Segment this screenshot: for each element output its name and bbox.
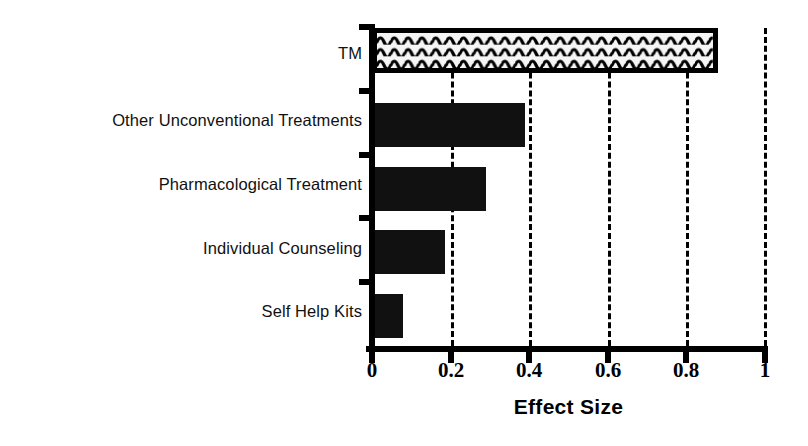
- x-tick-label-0.6: 0.6: [595, 360, 621, 381]
- category-label-tm: TM: [338, 45, 362, 62]
- category-label-other-unconventional-treatments: Other Unconventional Treatments: [112, 112, 362, 129]
- category-label-pharmacological-treatment: Pharmacological Treatment: [159, 176, 362, 193]
- x-axis-title: Effect Size: [372, 396, 765, 417]
- category-label-individual-counseling: Individual Counseling: [203, 240, 362, 257]
- gridline-0.8: [686, 28, 689, 346]
- x-axis-line: [366, 346, 768, 352]
- x-tick-label-0: 0: [367, 360, 378, 381]
- effect-size-bar-chart: TM Other Unconventional Treatments Pharm…: [0, 0, 808, 446]
- plot-area: [372, 28, 765, 346]
- y-tick-4: [359, 279, 371, 285]
- bar-pharmacological-treatment: [372, 167, 486, 211]
- x-tick-label-0.4: 0.4: [516, 360, 542, 381]
- gridline-0.4: [529, 28, 532, 346]
- gridline-0.6: [608, 28, 611, 346]
- category-axis-labels: TM Other Unconventional Treatments Pharm…: [0, 0, 362, 446]
- y-tick-0: [359, 24, 371, 30]
- y-axis-line: [369, 24, 375, 352]
- y-tick-3: [359, 215, 371, 221]
- bar-other-unconventional-treatments: [372, 103, 525, 147]
- x-tick-label-0.2: 0.2: [438, 360, 464, 381]
- y-tick-2: [359, 152, 371, 158]
- bar-tm: [372, 28, 718, 73]
- y-tick-1: [359, 88, 371, 94]
- x-tick-label-0.8: 0.8: [673, 360, 699, 381]
- gridline-1.0: [764, 28, 767, 346]
- bar-individual-counseling: [372, 230, 445, 274]
- x-tick-label-1: 1: [760, 360, 771, 381]
- bar-self-help-kits: [372, 294, 403, 338]
- category-label-self-help-kits: Self Help Kits: [262, 303, 362, 320]
- wave-pattern-fill: [377, 33, 713, 68]
